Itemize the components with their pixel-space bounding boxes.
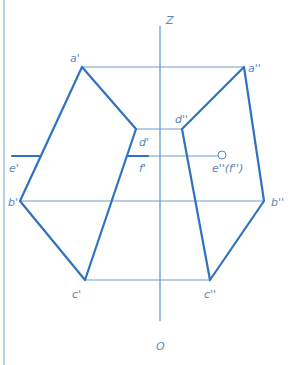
axis-label-o: O bbox=[156, 340, 165, 353]
label-a-front: a' bbox=[70, 52, 80, 65]
point-ef-side-icon bbox=[218, 151, 226, 159]
label-a-side: a'' bbox=[248, 62, 261, 75]
label-b-side: b'' bbox=[271, 196, 284, 209]
label-d-front: d' bbox=[139, 136, 149, 149]
label-b-front: b' bbox=[8, 196, 18, 209]
label-ef-side: e''(f'') bbox=[212, 162, 243, 175]
axis-label-z: Z bbox=[165, 14, 174, 27]
label-f-front: f' bbox=[139, 162, 146, 175]
label-d-side: d'' bbox=[175, 113, 188, 126]
label-c-front: c' bbox=[72, 288, 81, 301]
projection-diagram: Z O a' a'' d' d'' e' f' e''(f'') b' b'' … bbox=[0, 0, 296, 365]
front-view-outline bbox=[20, 67, 136, 280]
label-e-front: e' bbox=[9, 162, 19, 175]
label-c-side: c'' bbox=[204, 288, 216, 301]
